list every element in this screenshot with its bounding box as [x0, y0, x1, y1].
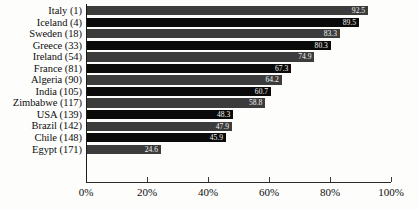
bar-track: 67.3 — [86, 63, 419, 75]
x-axis-line — [86, 182, 391, 183]
bar-chart: Italy (1)92.5Iceland (4)89.5Sweden (18)8… — [0, 0, 419, 210]
x-axis-tick-label: 80% — [320, 186, 340, 198]
bar-value-label: 64.2 — [266, 75, 282, 84]
bar-track: 74.9 — [86, 51, 419, 63]
bar-row: Italy (1)92.5 — [0, 5, 419, 17]
x-axis-tick-label: 40% — [198, 186, 218, 198]
x-axis-tick — [208, 177, 209, 182]
x-axis-tick — [147, 177, 148, 182]
bar: 64.2 — [86, 75, 282, 84]
bar-category-label: Greece (33) — [0, 40, 86, 52]
bar-category-label: Brazil (142) — [0, 120, 86, 132]
bar-category-label: Sweden (18) — [0, 28, 86, 40]
bar-category-label: France (81) — [0, 63, 86, 75]
bar-row: Zimbabwe (117)58.8 — [0, 97, 419, 109]
bar-value-label: 47.9 — [216, 122, 232, 131]
bar: 89.5 — [86, 18, 359, 27]
bar-row: Brazil (142)47.9 — [0, 120, 419, 132]
bar-row: USA (139)48.3 — [0, 109, 419, 121]
x-axis-tick-label: 100% — [378, 186, 404, 198]
bar-category-label: Italy (1) — [0, 5, 86, 17]
bar-track: 47.9 — [86, 120, 419, 132]
bar: 47.9 — [86, 122, 232, 131]
bar-category-label: Egypt (171) — [0, 144, 86, 156]
bar-row: Iceland (4)89.5 — [0, 17, 419, 29]
bar: 80.3 — [86, 41, 331, 50]
bar: 92.5 — [86, 6, 368, 15]
bar-row: Egypt (171)24.6 — [0, 144, 419, 156]
bar: 67.3 — [86, 64, 291, 73]
x-axis-tick-label: 20% — [137, 186, 157, 198]
bar-category-label: Ireland (54) — [0, 51, 86, 63]
bar-category-label: India (105) — [0, 86, 86, 98]
bar-category-label: Algeria (90) — [0, 74, 86, 86]
bar-category-label: Iceland (4) — [0, 17, 86, 29]
bar-value-label: 48.3 — [217, 110, 233, 119]
bar-row: Greece (33)80.3 — [0, 40, 419, 52]
bar-value-label: 67.3 — [275, 64, 291, 73]
bar-value-label: 92.5 — [352, 6, 368, 15]
bar-rows: Italy (1)92.5Iceland (4)89.5Sweden (18)8… — [0, 5, 419, 155]
bar: 48.3 — [86, 110, 233, 119]
x-axis-tick — [330, 177, 331, 182]
bar-row: Sweden (18)83.3 — [0, 28, 419, 40]
bar-value-label: 45.9 — [210, 133, 226, 142]
bar-row: Ireland (54)74.9 — [0, 51, 419, 63]
bar: 83.3 — [86, 29, 340, 38]
bar-row: France (81)67.3 — [0, 63, 419, 75]
bar-track: 58.8 — [86, 97, 419, 109]
bar: 74.9 — [86, 52, 314, 61]
bar-track: 24.6 — [86, 144, 419, 156]
bar-value-label: 89.5 — [343, 18, 359, 27]
x-axis-labels: 0%20%40%60%80%100% — [0, 186, 419, 204]
bar: 24.6 — [86, 145, 161, 154]
y-axis-line — [86, 4, 87, 182]
bar-value-label: 74.9 — [298, 52, 314, 61]
x-axis-tick — [391, 177, 392, 182]
bar-value-label: 24.6 — [145, 145, 161, 154]
bar-track: 89.5 — [86, 17, 419, 29]
x-axis-tick — [269, 177, 270, 182]
x-axis-tick-label: 60% — [259, 186, 279, 198]
bar: 45.9 — [86, 133, 226, 142]
bar-track: 92.5 — [86, 5, 419, 17]
bar-value-label: 58.8 — [249, 98, 265, 107]
bar-track: 80.3 — [86, 40, 419, 52]
bar-track: 45.9 — [86, 132, 419, 144]
plot-area: Italy (1)92.5Iceland (4)89.5Sweden (18)8… — [0, 0, 419, 210]
bar-row: India (105)60.7 — [0, 86, 419, 98]
bar: 60.7 — [86, 87, 271, 96]
bar-row: Algeria (90)64.2 — [0, 74, 419, 86]
bar-category-label: USA (139) — [0, 109, 86, 121]
bar-value-label: 80.3 — [315, 41, 331, 50]
bar-track: 60.7 — [86, 86, 419, 98]
x-axis-tick-label: 0% — [79, 186, 94, 198]
bar-row: Chile (148)45.9 — [0, 132, 419, 144]
bar-value-label: 83.3 — [324, 29, 340, 38]
bar-track: 83.3 — [86, 28, 419, 40]
bar-category-label: Zimbabwe (117) — [0, 97, 86, 109]
bar-category-label: Chile (148) — [0, 132, 86, 144]
bar: 58.8 — [86, 98, 265, 107]
bar-track: 48.3 — [86, 109, 419, 121]
bar-value-label: 60.7 — [255, 87, 271, 96]
bar-track: 64.2 — [86, 74, 419, 86]
